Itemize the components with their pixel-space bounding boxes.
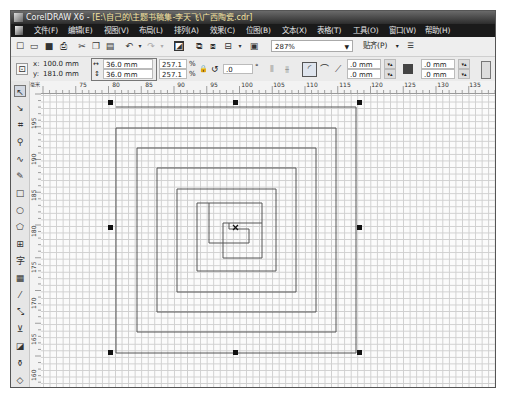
menu-effects[interactable]: 效果(C) xyxy=(210,24,235,37)
undo-icon[interactable]: ↶ xyxy=(124,41,134,51)
spinner-bottom-left[interactable]: ▾▴ xyxy=(384,69,396,79)
ruler-label: 120 xyxy=(371,81,382,88)
menu-file[interactable]: 文件(F) xyxy=(34,24,58,37)
shape-tool-icon[interactable]: ↘ xyxy=(14,102,26,114)
zoom-tool-icon[interactable]: ⚲ xyxy=(14,136,26,148)
scale-x-field[interactable]: 257.1 xyxy=(159,59,187,69)
pick-tool-icon[interactable]: ↖ xyxy=(14,85,26,97)
publish-pdf-icon[interactable]: ⧈ xyxy=(208,41,218,51)
square-spiral-object[interactable] xyxy=(41,94,495,387)
transparency-tool-icon[interactable]: ◪ xyxy=(14,340,26,352)
undo-dropdown-icon[interactable]: ▾ xyxy=(135,41,145,51)
corner-radius-top-left-field[interactable]: .0 mm xyxy=(347,59,381,69)
ruler-corner[interactable]: 毫米 xyxy=(30,81,41,93)
crop-tool-icon[interactable]: ⌗ xyxy=(14,119,26,131)
connector-tool-icon[interactable]: ⤡ xyxy=(14,306,26,318)
corner-radius-top-right-field[interactable]: .0 mm xyxy=(421,59,455,69)
handle-top-middle[interactable] xyxy=(233,100,238,105)
menu-arrange[interactable]: 排列(A) xyxy=(174,24,199,37)
save-icon[interactable]: ■ xyxy=(44,41,54,51)
x-label: x: xyxy=(33,59,40,69)
y-position-field[interactable]: 181.0 mm xyxy=(41,69,89,79)
table-tool-icon[interactable]: ▦ xyxy=(14,272,26,284)
ellipse-tool-icon[interactable]: ○ xyxy=(14,204,26,216)
width-field[interactable]: 36.0 mm xyxy=(103,59,153,69)
x-position-field[interactable]: 100.0 mm xyxy=(41,59,89,69)
scale-y-field[interactable]: 257.1 xyxy=(159,69,187,79)
handle-bottom-right[interactable] xyxy=(357,350,362,355)
handle-middle-left[interactable] xyxy=(108,225,113,230)
open-icon[interactable]: ▭ xyxy=(29,41,39,51)
property-bar: ⊡ x: 100.0 mm y: 181.0 mm ↔ 36.0 mm ↕ 36… xyxy=(11,57,495,82)
lock-ratio-icon[interactable]: 🔒 xyxy=(199,64,208,74)
menu-text[interactable]: 文本(X) xyxy=(282,24,307,37)
corner-radius-bottom-right-field[interactable]: .0 mm xyxy=(421,69,455,79)
ruler-label: 100 xyxy=(241,81,252,88)
handle-top-right[interactable] xyxy=(357,100,362,105)
lock-corner-radius-icon[interactable] xyxy=(403,64,413,74)
mirror-horizontal-icon[interactable]: ⫴ xyxy=(267,64,277,74)
text-tool-icon[interactable]: 字 xyxy=(14,255,26,267)
rectangle-tool-icon[interactable]: □ xyxy=(14,187,26,199)
import-icon[interactable]: ◩ xyxy=(174,41,184,51)
welcome-screen-icon[interactable]: ▣ xyxy=(249,41,259,51)
fill-tool-icon[interactable]: ◇ xyxy=(14,374,26,386)
drawing-canvas[interactable] xyxy=(41,94,495,387)
ruler-label: 90 xyxy=(177,81,185,88)
menu-edit[interactable]: 编辑(E) xyxy=(68,24,93,37)
ruler-label: 75 xyxy=(79,81,87,88)
rotation-icon: ↺ xyxy=(211,64,219,74)
handle-bottom-middle[interactable] xyxy=(233,350,238,355)
spinner-top-left[interactable]: ▾▴ xyxy=(384,59,396,69)
spinner-top-right[interactable]: ▾▴ xyxy=(458,59,470,69)
options-icon[interactable]: ☰ xyxy=(407,41,414,50)
copy-icon[interactable]: ❐ xyxy=(91,41,101,51)
redo-dropdown-icon[interactable]: ▾ xyxy=(157,41,167,51)
smart-fill-tool-icon[interactable]: ✎ xyxy=(14,170,26,182)
chamfered-corner-button[interactable]: ⟋ xyxy=(333,64,343,74)
eyedropper-tool-icon[interactable]: ⚱ xyxy=(14,357,26,369)
new-document-icon[interactable]: ☐ xyxy=(15,41,25,51)
document-path: [E:\自己的\主题书稿集-李天飞\广西陶瓷.cdr] xyxy=(92,13,252,22)
zoom-level-select[interactable]: 287% ▼ xyxy=(271,40,353,52)
menu-view[interactable]: 视图(V) xyxy=(104,24,129,37)
menu-window[interactable]: 窗口(W) xyxy=(389,24,416,37)
mirror-vertical-icon[interactable]: ⫵ xyxy=(282,64,292,74)
menu-tools[interactable]: 工具(O) xyxy=(353,24,379,37)
zoom-level-value: 287% xyxy=(275,43,295,51)
blend-tool-icon[interactable]: ⊻ xyxy=(14,323,26,335)
height-field[interactable]: 36.0 mm xyxy=(103,69,153,79)
rotation-field[interactable]: .0 xyxy=(223,64,253,74)
handle-middle-right[interactable] xyxy=(357,225,362,230)
horizontal-ruler[interactable]: 75 80 85 90 95 100 105 110 115 120 125 1… xyxy=(41,81,495,94)
paste-icon[interactable]: ▤ xyxy=(105,41,115,51)
horizontal-ruler-ticks xyxy=(41,81,495,93)
cut-icon[interactable]: ✂ xyxy=(77,41,87,51)
menu-bitmaps[interactable]: 位图(B) xyxy=(246,24,271,37)
corner-radius-bottom-left-field[interactable]: .0 mm xyxy=(347,69,381,79)
graph-paper-tool-icon[interactable]: ⊞ xyxy=(14,238,26,250)
dimension-tool-icon[interactable]: ⁄ xyxy=(14,289,26,301)
application-launcher-icon[interactable]: ⊟ xyxy=(223,41,233,51)
coreldraw-app-icon xyxy=(14,13,23,22)
menu-table[interactable]: 表格(T) xyxy=(317,24,341,37)
freehand-tool-icon[interactable]: ∿ xyxy=(14,153,26,165)
ruler-label: 125 xyxy=(404,81,415,88)
round-corner-button[interactable]: ◜ xyxy=(302,62,317,77)
handle-bottom-left[interactable] xyxy=(108,350,113,355)
polygon-tool-icon[interactable]: ⬠ xyxy=(14,221,26,233)
ruler-label: 180 xyxy=(30,226,37,237)
menu-help[interactable]: 帮助(H) xyxy=(425,24,451,37)
menu-layout[interactable]: 布局(L) xyxy=(139,24,163,37)
spinner-bottom-right[interactable]: ▾▴ xyxy=(458,69,470,79)
snap-to-dropdown[interactable]: 贴齐(P) ▾ ☰ xyxy=(363,40,414,52)
handle-top-left[interactable] xyxy=(108,100,113,105)
scalloped-corner-button[interactable]: ⌒ xyxy=(319,64,329,74)
redo-icon[interactable]: ↷ xyxy=(146,41,156,51)
relative-scale-button[interactable] xyxy=(481,61,491,79)
launcher-dropdown-icon[interactable]: ▾ xyxy=(235,41,245,51)
reference-point-icon[interactable]: ⊡ xyxy=(16,63,28,75)
print-icon[interactable]: ⎙ xyxy=(58,41,68,51)
document-menu-icon[interactable] xyxy=(15,26,23,35)
export-icon[interactable]: ⧉ xyxy=(194,41,204,51)
